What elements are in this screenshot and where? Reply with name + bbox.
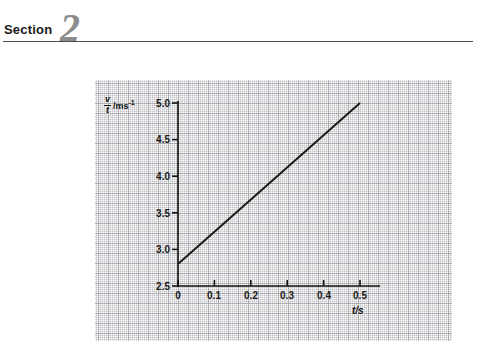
- section-label: Section: [4, 22, 52, 37]
- x-tick-label: 0.4: [312, 290, 336, 301]
- y-axis-unit-exponent: -1: [129, 99, 135, 106]
- header-divider: [3, 41, 473, 42]
- y-tick-label: 3.5: [146, 208, 170, 219]
- y-axis-unit-text: /ms: [113, 101, 129, 111]
- y-tick-label: 4.0: [146, 171, 170, 182]
- y-axis-fraction: v t: [104, 95, 111, 115]
- x-tick-label: 0.2: [239, 290, 263, 301]
- x-axis-title-text: t/s: [352, 305, 364, 316]
- section-header: Section 2: [0, 8, 480, 50]
- y-tick-label: 5.0: [146, 98, 170, 109]
- y-tick-label: 4.5: [146, 134, 170, 145]
- section-number: 2: [60, 8, 80, 48]
- y-axis-numerator: v: [104, 95, 111, 104]
- x-tick-label: 0.5: [348, 290, 372, 301]
- x-axis-title: t/s: [352, 305, 364, 316]
- x-tick-label: 0.3: [275, 290, 299, 301]
- x-tick-label: 0: [168, 290, 188, 301]
- y-axis-denominator: t: [105, 106, 110, 115]
- x-tick-label: 0.1: [202, 290, 226, 301]
- y-tick-label: 2.5: [146, 281, 170, 292]
- y-tick-label: 3.0: [146, 244, 170, 255]
- y-axis-title: v t /ms-1: [104, 95, 135, 115]
- y-axis-unit: /ms-1: [113, 99, 135, 111]
